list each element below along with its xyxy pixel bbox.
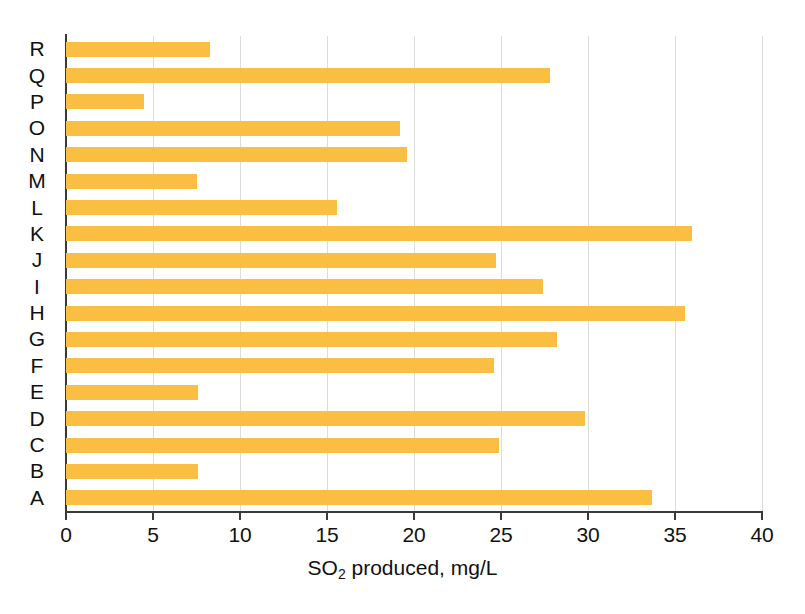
x-tick-mark	[152, 511, 154, 520]
category-label-b: B	[16, 460, 58, 481]
gridline	[588, 36, 589, 511]
x-tick-mark	[761, 511, 763, 520]
x-axis-title-post: produced, mg/L	[346, 556, 498, 579]
x-tick-mark	[413, 511, 415, 520]
bar-b	[66, 464, 198, 479]
category-label-i: I	[16, 276, 58, 297]
bar-m	[66, 174, 197, 189]
x-tick-label: 40	[732, 523, 792, 547]
category-label-j: J	[16, 249, 58, 270]
x-tick-mark	[65, 511, 67, 520]
gridline	[762, 36, 763, 511]
bar-q	[66, 68, 550, 83]
bar-n	[66, 147, 407, 162]
category-label-d: D	[16, 408, 58, 429]
category-label-m: M	[16, 170, 58, 191]
bar-g	[66, 332, 557, 347]
category-label-e: E	[16, 381, 58, 402]
x-tick-label: 10	[210, 523, 270, 547]
bar-d	[66, 411, 585, 426]
category-label-k: K	[16, 223, 58, 244]
bar-i	[66, 279, 543, 294]
bar-j	[66, 253, 496, 268]
bar-h	[66, 306, 685, 321]
bar-o	[66, 121, 400, 136]
gridline	[501, 36, 502, 511]
category-label-g: G	[16, 328, 58, 349]
x-tick-mark	[674, 511, 676, 520]
x-axis-title-pre: SO	[308, 556, 338, 579]
x-tick-label: 35	[645, 523, 705, 547]
bar-p	[66, 94, 144, 109]
category-label-r: R	[16, 38, 58, 59]
bar-l	[66, 200, 337, 215]
bar-e	[66, 385, 198, 400]
x-tick-label: 15	[297, 523, 357, 547]
bar-f	[66, 358, 494, 373]
bar-a	[66, 490, 652, 505]
category-label-h: H	[16, 302, 58, 323]
category-label-a: A	[16, 487, 58, 508]
x-tick-label: 5	[123, 523, 183, 547]
x-tick-mark	[587, 511, 589, 520]
category-label-q: Q	[16, 65, 58, 86]
category-label-p: P	[16, 91, 58, 112]
x-tick-label: 20	[384, 523, 444, 547]
x-tick-label: 0	[36, 523, 96, 547]
category-label-o: O	[16, 117, 58, 138]
bar-k	[66, 226, 692, 241]
x-tick-label: 30	[558, 523, 618, 547]
x-tick-mark	[239, 511, 241, 520]
category-label-f: F	[16, 355, 58, 376]
x-tick-mark	[500, 511, 502, 520]
x-tick-mark	[326, 511, 328, 520]
x-tick-label: 25	[471, 523, 531, 547]
category-label-l: L	[16, 197, 58, 218]
category-label-c: C	[16, 434, 58, 455]
x-axis-title: SO2 produced, mg/L	[0, 556, 805, 580]
bar-c	[66, 438, 499, 453]
bar-chart: 0510152025303540 RQPONMLKJIHGFEDCBA SO2 …	[0, 0, 805, 614]
x-axis-title-subscript: 2	[338, 566, 346, 582]
category-label-n: N	[16, 144, 58, 165]
gridline	[675, 36, 676, 511]
bar-r	[66, 42, 210, 57]
